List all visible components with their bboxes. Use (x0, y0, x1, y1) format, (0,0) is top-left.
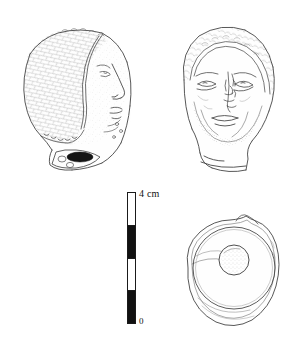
figure-profile-head (0, 0, 160, 185)
profile-break-cavity (67, 152, 93, 162)
scale-segment (128, 193, 135, 225)
scale-label-max: 4 cm (139, 188, 160, 199)
scale-segment (128, 225, 135, 258)
figure-circular-section (172, 206, 284, 334)
scale-segment (128, 290, 135, 323)
scale-bar (127, 192, 136, 324)
figure-frontal-head (168, 14, 290, 182)
scale-label-min: 0 (139, 316, 144, 326)
scale-segment (128, 258, 135, 291)
illustration-plate: 4 cm 0 (0, 0, 292, 353)
circular-hole-shading (221, 247, 247, 273)
